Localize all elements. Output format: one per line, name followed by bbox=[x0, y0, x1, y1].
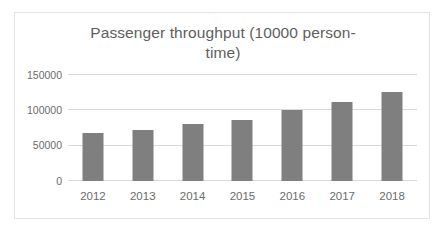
bar-series bbox=[68, 75, 417, 181]
bar[interactable] bbox=[382, 92, 403, 181]
x-axis-tick-label: 2016 bbox=[267, 189, 317, 203]
x-axis-tick-labels: 2012201320142015201620172018 bbox=[68, 187, 417, 203]
x-axis-tick-label: 2018 bbox=[367, 189, 417, 203]
chart-title-line-2: time) bbox=[55, 43, 391, 63]
chart-frame: Passenger throughput (10000 person- time… bbox=[14, 12, 430, 219]
x-axis-tick-label: 2015 bbox=[218, 189, 268, 203]
y-axis-tick-labels: 050000100000150000 bbox=[15, 75, 62, 181]
x-axis-tick-label: 2014 bbox=[168, 189, 218, 203]
bar-slot bbox=[267, 75, 317, 181]
bar[interactable] bbox=[332, 102, 353, 181]
bar[interactable] bbox=[182, 124, 203, 181]
bar-slot bbox=[118, 75, 168, 181]
y-axis-tick-label: 0 bbox=[6, 176, 62, 187]
bar-slot bbox=[218, 75, 268, 181]
bar[interactable] bbox=[82, 133, 103, 181]
chart-title-line-1: Passenger throughput (10000 person- bbox=[55, 23, 391, 43]
bar-slot bbox=[68, 75, 118, 181]
y-axis-tick-label: 50000 bbox=[6, 140, 62, 151]
bar[interactable] bbox=[232, 120, 253, 181]
bar-slot bbox=[168, 75, 218, 181]
x-axis-tick-label: 2017 bbox=[317, 189, 367, 203]
x-axis-tick-label: 2012 bbox=[68, 189, 118, 203]
x-axis-tick-label: 2013 bbox=[118, 189, 168, 203]
y-axis-tick-label: 150000 bbox=[6, 70, 62, 81]
chart-title: Passenger throughput (10000 person- time… bbox=[55, 23, 391, 63]
bar[interactable] bbox=[282, 110, 303, 181]
bar-slot bbox=[317, 75, 367, 181]
chart-container: Passenger throughput (10000 person- time… bbox=[0, 0, 446, 239]
plot-area bbox=[68, 75, 417, 181]
bar-slot bbox=[367, 75, 417, 181]
bar[interactable] bbox=[132, 130, 153, 181]
y-axis-tick-label: 100000 bbox=[6, 105, 62, 116]
